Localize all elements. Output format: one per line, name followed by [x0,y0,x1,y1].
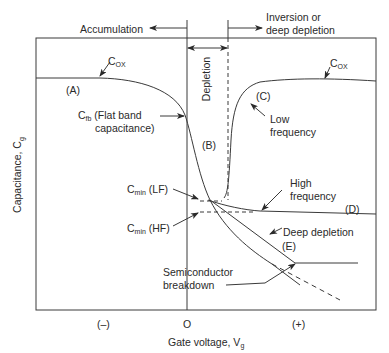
cmin-lf-label: Cmin (LF) [127,183,168,199]
x-axis-label: Gate voltage, Vg [168,336,244,352]
x-tick-positive: (+) [292,318,305,330]
cfb-label-2: capacitance) [95,122,155,134]
curve-deep-depletion-extension [272,264,340,300]
cox-left-label: COX [108,55,126,71]
curve-accumulation-depletion [36,78,300,285]
breakdown-label: Semiconductor [163,266,233,278]
curve-b-label: (B) [202,139,216,151]
x-tick-negative: (–) [97,318,110,330]
inversion-label: Inversion or [266,11,321,23]
high-frequency-label: High [290,177,312,189]
y-axis-label: Capacitance, Cg [11,137,25,213]
depletion-label: Depletion [200,57,212,101]
cv-diagram [0,0,389,353]
curve-d-label: (D) [345,203,360,215]
cmin-hf-label: Cmin (HF) [127,222,170,238]
low-frequency-label: Low [270,113,289,125]
cox-right-label: COX [330,57,348,73]
curve-c-label: (C) [256,90,271,102]
breakdown-label-2: breakdown [163,279,214,291]
high-frequency-label-2: frequency [290,190,336,202]
x-tick-zero: O [183,318,191,330]
low-frequency-label-2: frequency [270,126,316,138]
curve-a-label: (A) [66,84,80,96]
accumulation-label: Accumulation [80,23,143,35]
deep-depletion-label: Deep depletion [283,226,354,238]
curve-e-label: (E) [282,240,296,252]
inversion-label-2: deep depletion [266,24,335,36]
